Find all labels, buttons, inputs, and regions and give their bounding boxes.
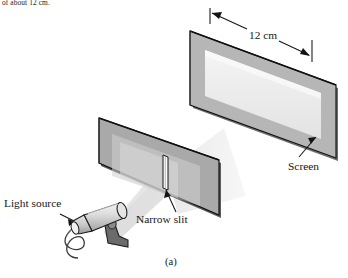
label-screen: Screen [288, 160, 319, 172]
figure-single-slit-diffraction: of about 12 cm. [0, 0, 348, 278]
diagram-canvas [0, 0, 348, 278]
slit-panel [99, 118, 221, 218]
label-light-source: Light source [4, 197, 61, 209]
figure-caption: (a) [165, 256, 177, 267]
label-dimension-12cm: 12 cm [249, 29, 277, 41]
label-narrow-slit: Narrow slit [136, 213, 188, 225]
